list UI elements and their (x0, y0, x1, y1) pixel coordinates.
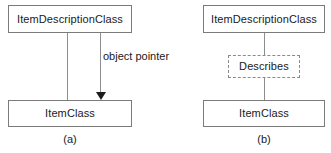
edge-label-object-pointer: object pointer (103, 51, 169, 62)
class-box-item-class-b: ItemClass (203, 100, 325, 127)
diagram-panel-b: ItemDescriptionClass Describes ItemClass… (165, 0, 331, 153)
class-box-item-description-class-a: ItemDescriptionClass (8, 5, 132, 33)
diagram-panel-a: ItemDescriptionClass object pointer Item… (0, 0, 166, 153)
association-line-lower-b (264, 78, 265, 100)
association-line-object-pointer-a (100, 33, 101, 92)
association-line-upper-b (264, 33, 265, 55)
class-box-item-class-a: ItemClass (8, 100, 132, 127)
association-class-box-describes: Describes (228, 55, 300, 78)
class-association-figure: ItemDescriptionClass object pointer Item… (0, 0, 331, 153)
class-box-item-description-class-b: ItemDescriptionClass (203, 5, 325, 33)
arrowhead-down-icon (96, 92, 106, 100)
association-line-plain-a (67, 33, 68, 100)
panel-caption-a: (a) (8, 134, 132, 145)
panel-caption-b: (b) (203, 134, 325, 145)
